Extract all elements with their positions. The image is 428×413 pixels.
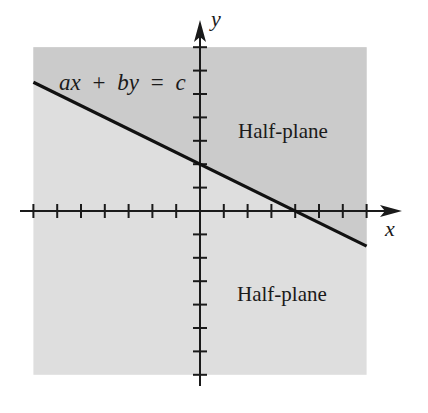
equation-equals: = [151,70,164,95]
y-axis-label: y [209,6,221,31]
equation-plus: + [92,70,105,95]
equation-term-by: by [117,70,140,95]
lower-half-plane-label: Half-plane [237,282,327,306]
half-plane-diagram: ax + by = c Half-plane Half-plane x y [0,0,428,413]
upper-half-plane-label: Half-plane [238,119,328,143]
equation-label: ax + by = c [59,70,186,95]
x-axis-label: x [384,216,395,241]
equation-term-c: c [175,70,185,95]
equation-term-ax: ax [59,70,82,95]
